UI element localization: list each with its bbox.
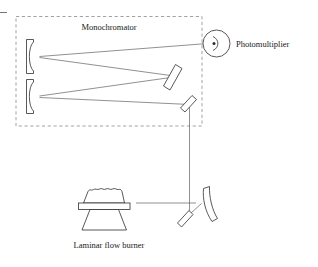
photomultiplier-label: Photomultiplier <box>236 39 290 49</box>
burner-head-plate <box>79 203 131 210</box>
laminar-flow-burner <box>79 189 131 230</box>
turning-mirror-body <box>178 211 194 228</box>
burner-label: Laminar flow burner <box>74 240 145 250</box>
focusing-mirror-body <box>203 187 217 222</box>
monochromator-label: Monochromator <box>81 22 136 32</box>
collimating-mirror-upper-body <box>27 40 34 74</box>
beam-lower-collimator-to-entrance-mirror <box>40 98 191 105</box>
focusing-mirror-concave <box>203 187 217 222</box>
burner-pedestal <box>82 210 127 231</box>
beam-upper-collimator-to-grating <box>40 58 171 76</box>
beam-grating-to-lower-collimator <box>40 78 171 97</box>
entrance-mirror <box>181 96 197 113</box>
collimating-mirror-lower-body <box>27 80 34 114</box>
entrance-mirror-body <box>181 96 197 113</box>
grating-mirror-body <box>164 65 183 91</box>
diagram-canvas: Monochromator <box>0 0 318 267</box>
beam-path-group <box>40 44 208 218</box>
grating-mirror <box>164 65 183 91</box>
beam-upper-collimator-to-photomultiplier <box>40 44 208 57</box>
optical-diagram-figure: Monochromator <box>0 0 318 267</box>
turning-mirror-flat <box>178 211 194 228</box>
burner-flame <box>84 189 125 203</box>
photomultiplier-cathode-dot <box>213 42 216 45</box>
collimating-mirror-upper <box>27 40 34 74</box>
photomultiplier-tube <box>203 30 230 57</box>
collimating-mirror-lower <box>27 80 34 114</box>
